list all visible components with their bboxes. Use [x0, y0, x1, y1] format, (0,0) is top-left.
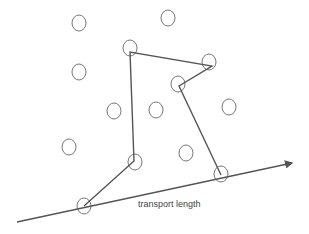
diagram-canvas: transport length [0, 0, 309, 234]
node-circles [62, 10, 236, 214]
node-circle [222, 99, 236, 115]
node-circle [149, 102, 163, 118]
node-circle [107, 103, 121, 119]
node-circle [62, 139, 76, 155]
node-circle [161, 10, 175, 26]
node-circle [179, 145, 193, 161]
node-circle [72, 64, 86, 80]
node-circle [72, 15, 86, 31]
transport-length-label: transport length [138, 199, 201, 209]
transport-length-arrow [17, 163, 292, 222]
node-circle [128, 154, 142, 170]
